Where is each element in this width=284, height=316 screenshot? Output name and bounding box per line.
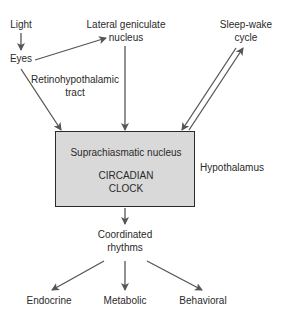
scn-label: Suprachiasmatic nucleus (56, 146, 196, 159)
rht-line1: Retinohypothalamic (28, 73, 122, 86)
lgn-line1: Lateral geniculate (80, 18, 172, 31)
arrow-rhythms-to-behavioral (147, 261, 202, 290)
arrow-sleep-to-scn (182, 48, 236, 130)
lgn-line2: nucleus (100, 31, 152, 44)
sleep-line2: cycle (214, 31, 278, 44)
rht-line2: tract (28, 86, 122, 99)
coord-line1: Coordinated (90, 228, 160, 241)
label-hypothalamus: Hypothalamus (198, 161, 266, 174)
node-light: Light (6, 18, 36, 31)
coord-line2: rhythms (90, 241, 160, 254)
scn-circadian-clock-box: Suprachiasmatic nucleus CIRCADIAN CLOCK (55, 131, 195, 207)
arrow-eyes-to-lgn (35, 38, 106, 60)
node-endocrine: Endocrine (20, 294, 78, 307)
arrow-scn-to-sleep (189, 48, 243, 130)
clock-line2: CLOCK (56, 182, 196, 195)
clock-line1: CIRCADIAN (56, 169, 196, 182)
node-eyes: Eyes (6, 52, 36, 65)
node-behavioral: Behavioral (172, 294, 234, 307)
node-metabolic: Metabolic (96, 294, 154, 307)
arrow-rhythms-to-endocrine (52, 261, 104, 290)
sleep-line1: Sleep-wake (214, 18, 278, 31)
